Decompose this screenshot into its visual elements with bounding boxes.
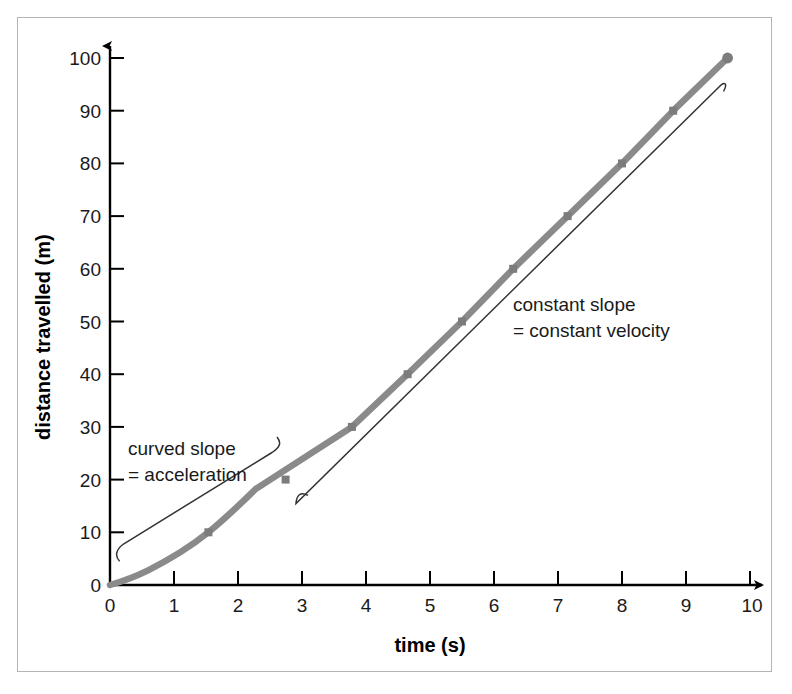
- x-axis: 0 1 2 3 4 5 6 7 8 9 10 time (s): [105, 571, 763, 656]
- data-markers: [204, 53, 733, 537]
- figure-container: 0 10 20 30 40 50 60 70 80 90 100 distanc…: [0, 0, 792, 694]
- x-tick-label: 2: [233, 595, 244, 616]
- annotation-line: = acceleration: [128, 464, 247, 485]
- y-tick-label: 80: [80, 153, 101, 174]
- data-series-distance-travelled: [110, 53, 733, 585]
- y-axis-ticks: [110, 58, 124, 585]
- x-axis-title: time (s): [394, 634, 465, 656]
- x-tick-label: 1: [169, 595, 180, 616]
- y-tick-labels: 0 10 20 30 40 50 60 70 80 90 100: [69, 48, 101, 596]
- x-tick-label: 0: [105, 595, 116, 616]
- x-tick-label: 8: [617, 595, 628, 616]
- y-axis-title: distance travelled (m): [32, 234, 54, 440]
- y-tick-label: 60: [80, 259, 101, 280]
- data-point-marker: [204, 528, 212, 536]
- y-tick-label: 0: [90, 575, 101, 596]
- data-point-marker-endpoint: [722, 53, 733, 64]
- data-point-marker: [348, 423, 356, 431]
- annotation-line: constant slope: [513, 294, 636, 315]
- x-tick-label: 10: [741, 595, 762, 616]
- annotation-curved-slope: curved slope = acceleration: [128, 438, 247, 485]
- x-tick-label: 9: [681, 595, 692, 616]
- chart-canvas: 0 10 20 30 40 50 60 70 80 90 100 distanc…: [0, 0, 792, 694]
- x-tick-label: 5: [425, 595, 436, 616]
- x-tick-label: 3: [297, 595, 308, 616]
- y-tick-label: 10: [80, 522, 101, 543]
- y-tick-label: 20: [80, 470, 101, 491]
- y-tick-label: 40: [80, 364, 101, 385]
- data-point-marker: [404, 370, 412, 378]
- annotation-constant-slope: constant slope = constant velocity: [513, 294, 670, 341]
- x-axis-ticks: [110, 571, 750, 585]
- y-tick-label: 30: [80, 417, 101, 438]
- data-point-marker: [564, 212, 572, 220]
- constant-slope-brace: [296, 83, 726, 503]
- y-axis: 0 10 20 30 40 50 60 70 80 90 100 distanc…: [32, 46, 124, 596]
- y-tick-label: 70: [80, 206, 101, 227]
- data-point-marker: [509, 265, 517, 273]
- data-point-marker: [282, 476, 290, 484]
- x-tick-label: 4: [361, 595, 372, 616]
- data-point-marker: [618, 159, 626, 167]
- x-tick-label: 6: [489, 595, 500, 616]
- y-tick-label: 90: [80, 101, 101, 122]
- y-tick-label: 100: [69, 48, 101, 69]
- y-tick-label: 50: [80, 312, 101, 333]
- data-point-marker: [669, 107, 677, 115]
- data-point-marker: [458, 318, 466, 326]
- x-tick-label: 7: [553, 595, 564, 616]
- annotation-line: = constant velocity: [513, 320, 670, 341]
- annotation-line: curved slope: [128, 438, 236, 459]
- x-tick-labels: 0 1 2 3 4 5 6 7 8 9 10: [105, 595, 763, 616]
